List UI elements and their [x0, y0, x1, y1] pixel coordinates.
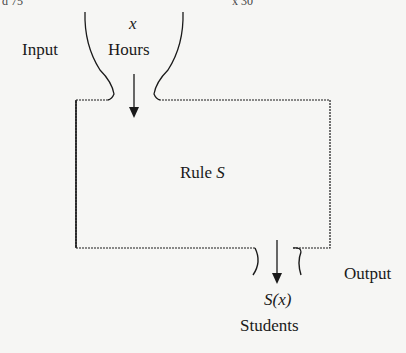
output-variable: S(x)	[264, 290, 291, 310]
output-unit: Students	[240, 316, 299, 336]
input-label: Input	[22, 40, 58, 60]
input-variable: x	[129, 14, 137, 34]
output-funnel-right	[299, 252, 301, 275]
input-arrowhead	[129, 107, 139, 118]
input-unit: Hours	[108, 40, 150, 60]
output-label: Output	[344, 264, 391, 284]
input-funnel-right	[154, 12, 183, 100]
rule-title: Rule S	[180, 163, 225, 183]
output-funnel-left	[253, 248, 258, 275]
rule-name: S	[216, 163, 225, 182]
output-arrowhead	[272, 273, 282, 284]
rule-label: Rule	[180, 163, 212, 182]
